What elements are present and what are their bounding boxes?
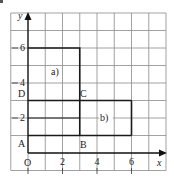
point-label-a: A — [18, 138, 26, 149]
grid-lines — [11, 13, 166, 171]
y-axis-label: y — [17, 10, 23, 21]
region-a-label: a) — [51, 66, 59, 78]
y-tick-2: 2 — [20, 112, 25, 123]
point-label-d: D — [18, 88, 25, 99]
y-tick-6: 6 — [20, 42, 25, 53]
x-tick-6: 6 — [129, 156, 134, 167]
tick-marks — [12, 48, 132, 174]
x-tick-4: 4 — [95, 156, 100, 167]
x-tick-2: 2 — [60, 156, 65, 167]
origin-label: O — [24, 157, 31, 168]
point-label-c: C — [80, 88, 87, 99]
x-axis-label: x — [156, 157, 162, 168]
region-b-label: b) — [100, 112, 108, 124]
region-a-outline — [28, 48, 80, 136]
corner-mark — [0, 0, 3, 3]
point-label-b: B — [80, 139, 87, 150]
coordinate-grid-diagram: y x O 6 4 2 2 4 6 D C A B a) b) — [0, 0, 174, 181]
y-tick-4: 4 — [20, 77, 25, 88]
